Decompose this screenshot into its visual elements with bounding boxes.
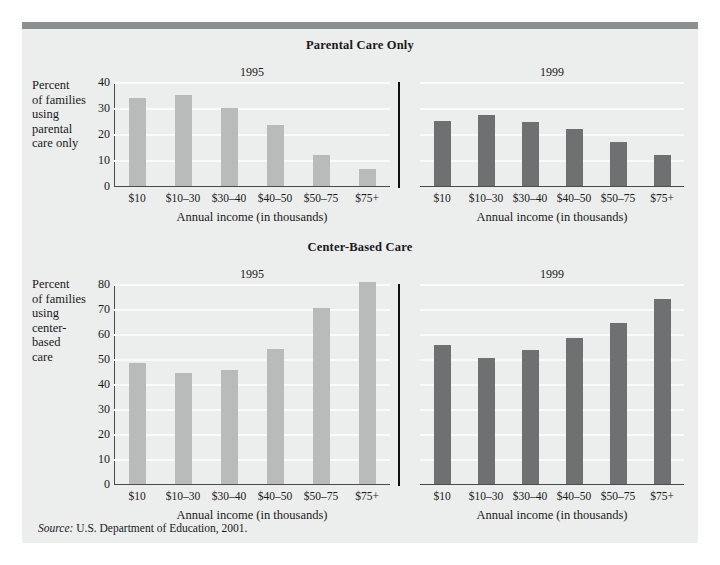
x-axis-tick: $10 (128, 490, 145, 502)
x-axis-tick: $50–75 (601, 192, 636, 204)
bar (654, 155, 671, 186)
gridline (114, 108, 390, 110)
bar (175, 95, 192, 186)
chart-title-center-based-care: Center-Based Care (22, 240, 698, 255)
gridline (420, 384, 684, 386)
gridline (114, 160, 390, 162)
bar (313, 155, 330, 186)
gridline (114, 134, 390, 136)
x-axis-tick: $10–30 (469, 490, 504, 502)
x-axis-tick: $50–75 (601, 490, 636, 502)
x-axis-tick: $75+ (355, 490, 379, 502)
bar (221, 108, 238, 186)
y-axis-tick: 0 (80, 179, 110, 194)
bar (566, 129, 583, 186)
bar (129, 363, 146, 484)
y-axis-tick: 30 (80, 402, 110, 417)
x-axis-line (420, 186, 684, 187)
x-axis-tick: $40–50 (557, 490, 592, 502)
chart-center-based-care: 1995199901020304050607080$10$10–30$30–40… (22, 284, 698, 544)
gridline (420, 309, 684, 311)
gridline (114, 284, 390, 286)
gridline (420, 434, 684, 436)
gridline (114, 334, 390, 336)
x-axis-tick: $30–40 (513, 490, 548, 502)
panel-divider (398, 284, 400, 486)
bar (267, 349, 284, 484)
accent-bar (22, 22, 698, 29)
year-label-1995: 1995 (240, 65, 264, 80)
y-axis-tick: 10 (80, 153, 110, 168)
x-axis-title: Annual income (in thousands) (114, 210, 390, 225)
gridline (114, 82, 390, 84)
y-axis-tick: 10 (80, 452, 110, 467)
x-axis-title: Annual income (in thousands) (114, 508, 390, 523)
bar (434, 121, 451, 186)
bar (522, 350, 539, 484)
chart-parental-care: 19951999010203040$10$10–30$30–40$40–50$5… (22, 82, 698, 246)
y-axis-tick: 40 (80, 377, 110, 392)
y-axis-tick: 70 (80, 302, 110, 317)
x-axis-line (114, 484, 390, 485)
x-axis-tick: $75+ (650, 192, 674, 204)
x-axis-tick: $10–30 (166, 192, 201, 204)
source-prefix: Source: (38, 522, 73, 534)
x-axis-tick: $50–75 (304, 490, 339, 502)
x-axis-tick: $30–40 (212, 192, 247, 204)
x-axis-tick: $10 (128, 192, 145, 204)
y-axis-tick: 30 (80, 101, 110, 116)
gridline (420, 409, 684, 411)
bar (221, 370, 238, 484)
bar (478, 358, 495, 484)
year-label-1995: 1995 (240, 267, 264, 282)
x-axis-line (114, 186, 390, 187)
gridline (114, 384, 390, 386)
y-axis-tick: 20 (80, 127, 110, 142)
gridline (114, 309, 390, 311)
gridline (114, 459, 390, 461)
bar (522, 122, 539, 186)
x-axis-tick: $30–40 (212, 490, 247, 502)
x-axis-tick: $10–30 (469, 192, 504, 204)
y-axis-tick: 80 (80, 277, 110, 292)
x-axis-tick: $30–40 (513, 192, 548, 204)
gridline (420, 82, 684, 84)
year-label-1999: 1999 (540, 267, 564, 282)
bar (313, 308, 330, 484)
source-text: U.S. Department of Education, 2001. (73, 522, 247, 534)
bar (359, 169, 376, 186)
y-axis-tick: 20 (80, 427, 110, 442)
gridline (114, 409, 390, 411)
gridline (114, 359, 390, 361)
gridline (420, 160, 684, 162)
gridline (420, 459, 684, 461)
x-axis-title: Annual income (in thousands) (420, 210, 684, 225)
x-axis-tick: $75+ (355, 192, 379, 204)
gridline (420, 284, 684, 286)
x-axis-title: Annual income (in thousands) (420, 508, 684, 523)
bar (175, 373, 192, 484)
y-axis-tick: 0 (80, 477, 110, 492)
x-axis-tick: $75+ (650, 490, 674, 502)
bar (434, 345, 451, 484)
gridline (420, 359, 684, 361)
x-axis-tick: $50–75 (304, 192, 339, 204)
bar (610, 323, 627, 484)
x-axis-line (420, 484, 684, 485)
y-axis-tick: 40 (80, 75, 110, 90)
gridline (420, 108, 684, 110)
y-axis-tick: 60 (80, 327, 110, 342)
x-axis-tick: $40–50 (258, 192, 293, 204)
year-label-1999: 1999 (540, 65, 564, 80)
bar (359, 282, 376, 485)
panel-divider (398, 82, 400, 188)
gridline (420, 134, 684, 136)
x-axis-tick: $40–50 (557, 192, 592, 204)
bar (267, 125, 284, 186)
y-axis-tick: 50 (80, 352, 110, 367)
chart-title-parental-care: Parental Care Only (22, 38, 698, 53)
x-axis-tick: $10 (433, 192, 450, 204)
bar (566, 338, 583, 484)
bar (478, 115, 495, 187)
x-axis-tick: $10 (433, 490, 450, 502)
